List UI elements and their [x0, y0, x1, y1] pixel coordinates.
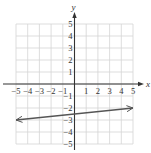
x-tick-label: −2 — [47, 86, 56, 96]
x-axis-label: x — [145, 79, 150, 89]
y-tick-label: −4 — [63, 127, 73, 137]
x-axis-arrow-icon — [138, 82, 144, 86]
x-tick-label: −4 — [23, 86, 33, 96]
x-tick-label: −5 — [11, 86, 20, 96]
y-tick-label: −1 — [63, 91, 72, 101]
x-tick-label: 5 — [131, 86, 135, 96]
x-tick-label: 1 — [84, 86, 88, 96]
axes — [3, 12, 144, 150]
y-tick-label: −5 — [63, 139, 72, 149]
x-tick-label: 4 — [119, 86, 124, 96]
y-tick-label: 2 — [68, 55, 72, 65]
y-tick-label: 1 — [68, 67, 72, 77]
x-tick-label: −3 — [35, 86, 44, 96]
y-axis-label: y — [71, 2, 76, 12]
y-tick-label: −2 — [63, 103, 72, 113]
y-tick-label: 3 — [68, 43, 72, 53]
x-tick-label: 3 — [107, 86, 111, 96]
coordinate-plane: −5−4−3−2−11234554321−1−2−3−4−5 x y — [0, 0, 151, 153]
y-tick-label: −3 — [63, 115, 72, 125]
x-tick-label: 2 — [96, 86, 100, 96]
y-axis-arrow-icon — [72, 12, 76, 18]
y-tick-label: 5 — [68, 19, 72, 29]
